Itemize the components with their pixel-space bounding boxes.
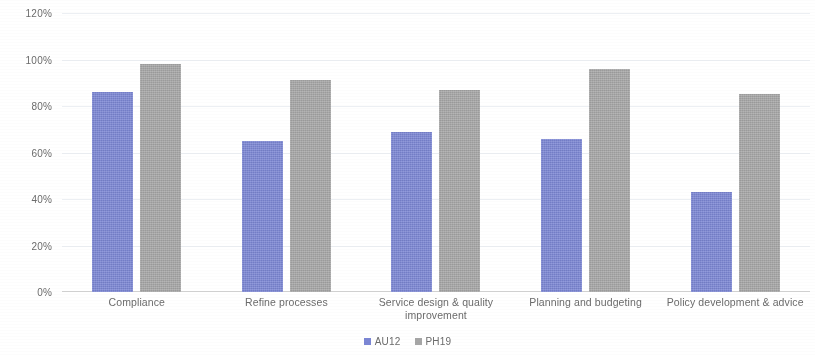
bar-group-compliance — [62, 13, 212, 292]
bar-au12-service-design[interactable] — [391, 132, 432, 292]
bar-ph19-policy-development[interactable] — [739, 94, 780, 292]
y-axis-tick-60: 60% — [6, 147, 52, 158]
legend-label-au12: AU12 — [375, 336, 401, 347]
bar-ph19-refine-processes[interactable] — [290, 80, 331, 292]
bar-au12-compliance[interactable] — [92, 92, 133, 292]
y-axis-tick-120: 120% — [6, 8, 52, 19]
x-axis-label-compliance: Compliance — [62, 296, 212, 322]
y-axis-tick-20: 20% — [6, 240, 52, 251]
bar-group-refine-processes — [212, 13, 362, 292]
bar-au12-policy-development[interactable] — [691, 192, 732, 292]
bar-au12-refine-processes[interactable] — [242, 141, 283, 292]
bar-groups — [62, 13, 810, 292]
y-axis-tick-100: 100% — [6, 54, 52, 65]
x-axis-label-planning-budgeting: Planning and budgeting — [511, 296, 661, 322]
bar-group-policy-development — [660, 13, 810, 292]
bar-au12-planning-budgeting[interactable] — [541, 139, 582, 292]
y-axis-tick-40: 40% — [6, 194, 52, 205]
bar-ph19-planning-budgeting[interactable] — [589, 69, 630, 292]
legend-swatch-icon-au12 — [364, 338, 371, 345]
legend-label-ph19: PH19 — [426, 336, 452, 347]
y-axis-tick-80: 80% — [6, 101, 52, 112]
bar-group-service-design — [361, 13, 511, 292]
x-axis-label-policy-development: Policy development & advice — [660, 296, 810, 322]
legend-swatch-icon-ph19 — [415, 338, 422, 345]
bar-chart: 120% 100% 80% 60% 40% 20% 0% — [0, 0, 815, 355]
x-axis-label-refine-processes: Refine processes — [212, 296, 362, 322]
y-axis-tick-0: 0% — [6, 287, 52, 298]
legend-item-au12[interactable]: AU12 — [364, 336, 401, 347]
bar-ph19-service-design[interactable] — [439, 90, 480, 292]
plot-area — [62, 13, 810, 292]
bar-group-planning-budgeting — [511, 13, 661, 292]
bar-ph19-compliance[interactable] — [140, 64, 181, 292]
x-axis-label-service-design: Service design & quality improvement — [361, 296, 511, 322]
legend-item-ph19[interactable]: PH19 — [415, 336, 452, 347]
chart-legend: AU12 PH19 — [0, 336, 815, 347]
x-axis-labels: Compliance Refine processes Service desi… — [62, 296, 810, 322]
